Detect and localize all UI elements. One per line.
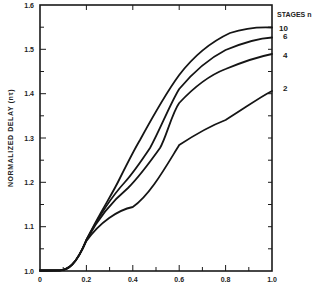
x-tick-label: 0.8: [221, 276, 231, 283]
x-tick-label: 1.0: [267, 276, 277, 283]
y-tick-label: 1.2: [24, 179, 34, 186]
curves: [40, 27, 272, 270]
x-tick-label: 0.6: [174, 276, 184, 283]
series-label-n2: 2: [283, 84, 288, 93]
x-tick-label: 0: [38, 276, 42, 283]
series-label-n6: 6: [283, 32, 288, 41]
curve-n2: [40, 91, 272, 271]
x-tick-labels: 0 0.2 0.4 0.6 0.8 1.0: [38, 276, 277, 283]
curve-n4: [40, 54, 272, 271]
x-tick-label: 0.4: [128, 276, 138, 283]
y-tick-label: 1.6: [24, 2, 34, 9]
x-tick-label: 0.2: [82, 276, 92, 283]
y-tick-label: 1.3: [24, 135, 34, 142]
series-label-n4: 4: [283, 51, 288, 60]
legend-title: STAGES n: [277, 11, 311, 18]
y-tick-label: 1.4: [24, 90, 34, 97]
y-axis-title: NORMALIZED DELAY (nτ): [7, 89, 15, 187]
y-tick-labels: 1.0 1.1 1.2 1.3 1.4 1.5 1.6: [24, 2, 34, 275]
y-tick-label: 1.1: [24, 223, 34, 230]
delay-chart: 1.0 1.1 1.2 1.3 1.4 1.5 1.6 0 0.2 0.4 0.…: [0, 0, 318, 289]
y-tick-label: 1.5: [24, 46, 34, 53]
y-tick-label: 1.0: [24, 268, 34, 275]
